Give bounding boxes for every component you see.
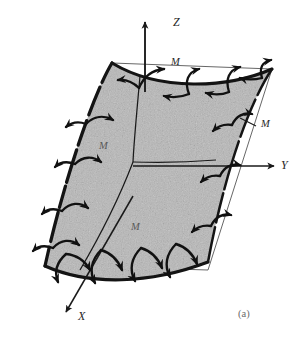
moment-label-top: M — [171, 57, 180, 68]
moment-label-bottom: M — [131, 222, 140, 233]
axis-label-x: X — [78, 310, 85, 322]
moment-label-left: M — [99, 141, 108, 152]
moment-label-right: M — [261, 119, 270, 130]
figure-caption: (a) — [238, 309, 250, 320]
diagram-canvas — [0, 0, 300, 343]
shell-surface — [45, 63, 272, 280]
axis-label-z: Z — [173, 16, 180, 28]
axis-label-y: Y — [281, 159, 288, 171]
shell-moment-diagram: Z Y X M M M M (a) — [0, 0, 300, 343]
